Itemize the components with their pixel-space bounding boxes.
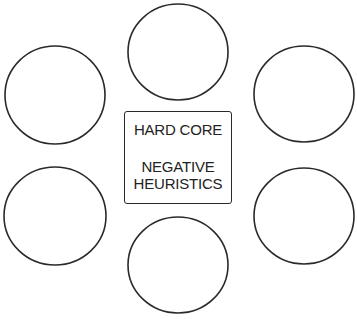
negative-heuristics-label: NEGATIVE HEURISTICS <box>125 158 231 192</box>
circle-bottom <box>128 217 228 313</box>
circle-top-left <box>5 46 105 144</box>
circle-bottom-left <box>4 167 106 265</box>
circle-top-right <box>254 46 354 142</box>
negative-heuristics-line2: HEURISTICS <box>125 175 231 192</box>
circle-bottom-right <box>254 168 354 264</box>
negative-heuristics-line1: NEGATIVE <box>125 158 231 175</box>
circle-top <box>128 4 228 100</box>
hard-core-label: HARD CORE <box>125 121 231 138</box>
hard-core-box: HARD CORE NEGATIVE HEURISTICS <box>124 111 232 204</box>
